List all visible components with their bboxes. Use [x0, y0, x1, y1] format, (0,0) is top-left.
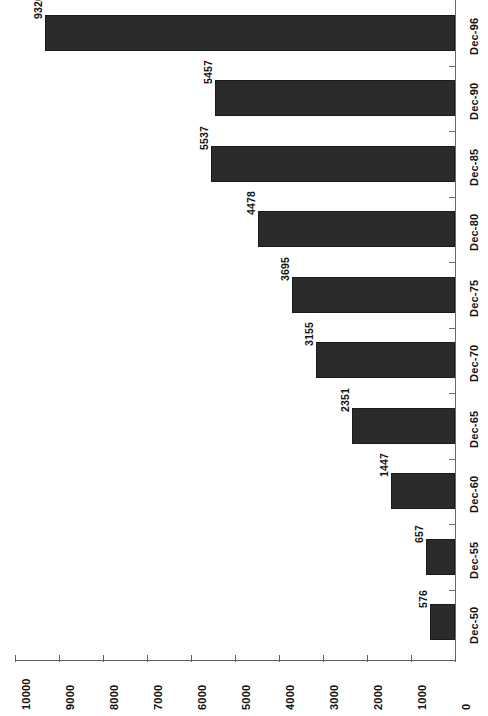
value-tick-label: 5000	[240, 685, 252, 710]
category-tick	[449, 328, 456, 329]
value-tick	[235, 655, 236, 662]
bar-value-label: 3695	[279, 257, 291, 281]
value-tick-label: 8000	[108, 685, 120, 710]
category-tick	[449, 393, 456, 394]
value-tick	[279, 655, 280, 662]
value-tick-label: 7000	[152, 685, 164, 710]
bar-value-label: 2351	[339, 388, 351, 412]
bar-value-label: 576	[417, 590, 429, 608]
bar	[426, 539, 455, 575]
bar-value-label: 3155	[303, 322, 315, 346]
category-label: Dec-60	[468, 476, 480, 513]
value-tick-label: 4000	[284, 685, 296, 710]
value-tick-label: 9000	[64, 685, 76, 710]
bar	[316, 342, 455, 378]
bar-value-label: 9326	[32, 0, 44, 19]
category-label: Dec-50	[468, 607, 480, 644]
category-tick	[449, 524, 456, 525]
value-tick	[147, 655, 148, 662]
bar-value-label: 1447	[378, 453, 390, 477]
value-tick-label: 3000	[328, 685, 340, 710]
category-label: Dec-65	[468, 411, 480, 448]
value-tick	[323, 655, 324, 662]
bar-value-label: 5457	[202, 60, 214, 84]
value-tick	[367, 655, 368, 662]
bar-value-label: 5537	[198, 126, 210, 150]
value-tick-label: 1000	[416, 685, 428, 710]
category-label: Dec-90	[468, 83, 480, 120]
value-tick	[455, 655, 456, 662]
bar-value-label: 4478	[245, 191, 257, 215]
category-tick	[449, 459, 456, 460]
value-tick-label: 10000	[20, 678, 32, 710]
value-tick-label: 0	[460, 704, 472, 710]
category-tick	[449, 590, 456, 591]
value-tick	[191, 655, 192, 662]
category-tick	[449, 131, 456, 132]
value-tick	[103, 655, 104, 662]
category-label: Dec-80	[468, 214, 480, 251]
value-tick	[59, 655, 60, 662]
value-tick-label: 2000	[372, 685, 384, 710]
category-label: Dec-75	[468, 280, 480, 317]
bar	[211, 146, 455, 182]
category-label: Dec-55	[468, 542, 480, 579]
plot-area: 57665714472351315536954478553754579326	[0, 0, 488, 655]
category-tick	[449, 66, 456, 67]
category-label: Dec-85	[468, 149, 480, 186]
bar	[258, 211, 455, 247]
category-label: Dec-70	[468, 345, 480, 382]
bar	[45, 15, 455, 51]
bar	[352, 408, 455, 444]
value-tick	[15, 655, 16, 662]
category-label: Dec-96	[468, 18, 480, 55]
bar-chart-figure: 57665714472351315536954478553754579326 D…	[0, 0, 488, 716]
bar	[430, 604, 455, 640]
bar-value-label: 657	[413, 525, 425, 543]
bar	[391, 473, 455, 509]
bar	[215, 80, 455, 116]
value-tick	[411, 655, 412, 662]
value-tick-label: 6000	[196, 685, 208, 710]
category-tick	[449, 197, 456, 198]
category-tick	[449, 262, 456, 263]
bar	[292, 277, 455, 313]
